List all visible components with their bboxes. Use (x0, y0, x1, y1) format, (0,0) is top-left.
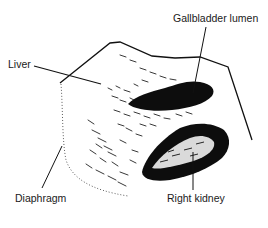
kidney-label: Right kidney (167, 193, 225, 204)
liver-leader (34, 66, 101, 84)
diaphragm-boundary (61, 84, 128, 196)
gallbladder-shape (128, 81, 214, 110)
diaphragm-label: Diaphragm (15, 193, 66, 204)
diaphragm-leader (42, 146, 62, 188)
gallbladder-label: Gallbladder lumen (173, 13, 258, 24)
liver-label: Liver (8, 59, 31, 70)
